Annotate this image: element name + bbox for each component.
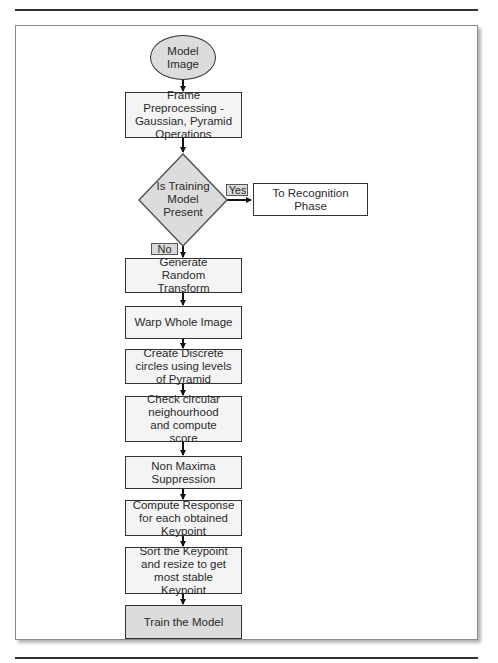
- start-line-2: Image: [167, 58, 199, 71]
- node-compute-response: Compute Response for each obtained Keypo…: [125, 500, 242, 536]
- node-check-circular-neighbourhood: Check circular neighourhood and compute …: [125, 396, 242, 442]
- node-frame-preprocessing: Frame Preprocessing - Gaussian, Pyramid …: [125, 92, 242, 138]
- no-label: No: [151, 243, 178, 255]
- node-non-maxima-suppression: Non Maxima Suppression: [125, 456, 242, 489]
- yes-label: Yes: [226, 184, 248, 196]
- node-sort-keypoint: Sort the Keypoint and resize to get most…: [125, 547, 242, 594]
- start-model-image: Model Image: [150, 35, 216, 80]
- node-warp-whole-image: Warp Whole Image: [125, 306, 242, 339]
- node-recognition-phase: To Recognition Phase: [253, 183, 368, 216]
- connectors: [0, 0, 498, 663]
- node-create-discrete-circles: Create Discrete circles using levels of …: [125, 349, 242, 384]
- decision-label: Is Training Model Present: [143, 180, 223, 219]
- bottom-rule: [15, 657, 478, 659]
- node-train-model: Train the Model: [125, 605, 242, 639]
- start-line-1: Model: [167, 45, 198, 58]
- node-generate-random-transform: Generate Random Transform: [125, 258, 242, 293]
